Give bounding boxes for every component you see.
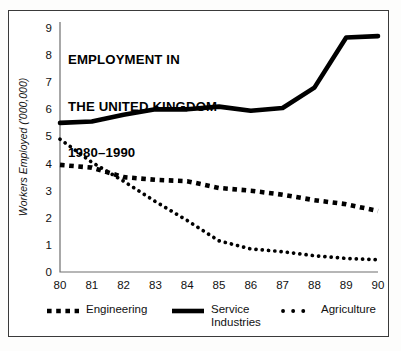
y-tick-label: 4 [46, 158, 53, 170]
legend-item-service-industries: Service Industries [171, 303, 261, 329]
chart-legend: Engineering Service Industries Agricultu… [16, 303, 386, 333]
legend-swatch-service-industries-icon [171, 304, 205, 318]
chart-title-line-1: EMPLOYMENT IN [68, 52, 217, 68]
legend-label-engineering: Engineering [86, 303, 147, 316]
y-tick-label: 6 [46, 103, 52, 115]
y-axis-tick-labels: 0123456789 [46, 22, 53, 278]
y-axis-title-text: Workers Employed ('000,000) [17, 78, 29, 217]
chart-title: EMPLOYMENT IN THE UNITED KINGDOM 1980–19… [68, 21, 217, 192]
x-tick-label: 85 [213, 279, 226, 291]
x-tick-label: 89 [340, 279, 353, 291]
x-tick-label: 84 [181, 279, 194, 291]
y-tick-label: 1 [46, 239, 52, 251]
x-axis-tick-labels: 8081828384858687888990 [54, 279, 385, 291]
chart-title-line-2: THE UNITED KINGDOM [68, 99, 217, 115]
y-tick-label: 2 [46, 212, 52, 224]
x-tick-label: 86 [244, 279, 257, 291]
legend-label-agriculture: Agriculture [321, 303, 376, 316]
y-tick-label: 7 [46, 76, 52, 88]
legend-label-service-industries: Service Industries [211, 303, 261, 329]
y-tick-label: 5 [46, 130, 52, 142]
x-tick-label: 82 [117, 279, 130, 291]
x-tick-label: 88 [308, 279, 321, 291]
x-tick-label: 87 [276, 279, 289, 291]
x-tick-label: 90 [372, 279, 385, 291]
legend-swatch-engineering-icon [46, 304, 80, 318]
y-tick-label: 3 [46, 185, 52, 197]
legend-item-agriculture: Agriculture [281, 303, 376, 318]
chart-figure: 0123456789 8081828384858687888990 Worker… [0, 0, 401, 351]
y-tick-label: 0 [46, 266, 52, 278]
chart-title-line-3: 1980–1990 [68, 145, 217, 161]
legend-swatch-agriculture-icon [281, 304, 315, 318]
y-axis-title: Workers Employed ('000,000) [17, 78, 29, 217]
x-tick-label: 80 [54, 279, 67, 291]
y-tick-label: 8 [46, 49, 52, 61]
x-tick-label: 81 [85, 279, 98, 291]
legend-item-engineering: Engineering [46, 303, 147, 318]
x-tick-label: 83 [149, 279, 162, 291]
y-tick-label: 9 [46, 22, 52, 34]
